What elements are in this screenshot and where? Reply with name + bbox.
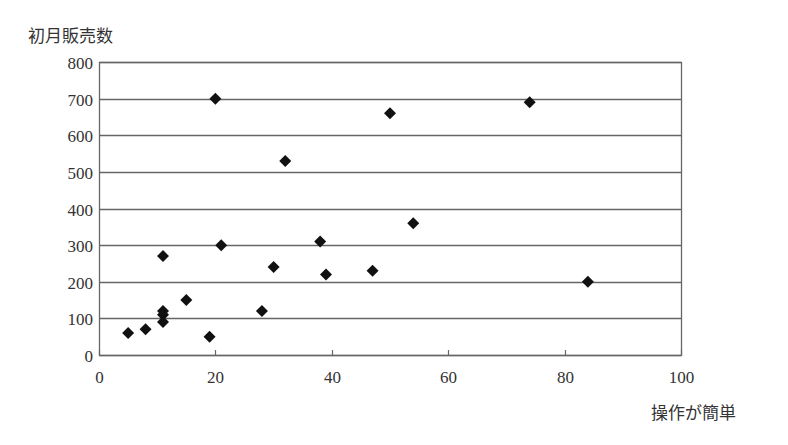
data-point-diamond [209,93,221,105]
x-tick-label: 0 [95,368,104,387]
data-point-diamond [279,155,291,167]
x-tick-label: 100 [669,368,695,387]
y-tick-label: 100 [68,310,94,329]
gridlines [99,63,681,356]
data-point-diamond [122,327,134,339]
y-tick-label: 200 [68,274,94,293]
data-point-diamond [256,305,268,317]
data-point-diamond [524,96,536,108]
y-tick-label: 400 [68,201,94,220]
y-tick-label: 800 [68,54,94,73]
data-point-diamond [407,217,419,229]
x-tick-label: 60 [440,368,457,387]
y-axis-ticks: 0100200300400500600700800 [68,54,94,366]
data-point-diamond [157,250,169,262]
data-points [122,93,594,343]
x-tick-label: 40 [324,368,341,387]
data-point-diamond [140,323,152,335]
y-tick-label: 700 [68,91,94,110]
data-point-diamond [320,268,332,280]
data-point-diamond [367,265,379,277]
y-tick-label: 0 [85,347,94,366]
data-point-diamond [157,316,169,328]
x-axis-ticks: 020406080100 [95,368,694,387]
data-point-diamond [180,294,192,306]
scatter-chart: 0100200300400500600700800 020406080100 [0,0,788,445]
data-point-diamond [268,261,280,273]
data-point-diamond [384,107,396,119]
y-tick-label: 600 [68,127,94,146]
data-point-diamond [204,331,216,343]
x-tick-label: 80 [557,368,574,387]
data-point-diamond [582,276,594,288]
x-tick-label: 20 [207,368,224,387]
data-point-diamond [215,239,227,251]
y-tick-label: 300 [68,237,94,256]
x-axis-title: 操作が簡単 [651,399,736,424]
y-tick-label: 500 [68,164,94,183]
